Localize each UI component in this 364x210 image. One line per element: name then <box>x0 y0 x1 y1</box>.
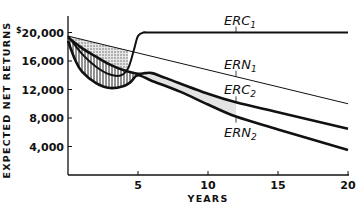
x-tick-label: 5 <box>134 179 142 192</box>
y-tick-label: 16,000 <box>22 55 65 68</box>
series-label-ern1: ERN1 <box>224 57 257 74</box>
chart: 5101520 4,0008,00012,00016,000$20,000 ER… <box>0 0 364 210</box>
y-tick-label: $20,000 <box>16 26 64 40</box>
y-ticks: 4,0008,00012,00016,000$20,000 <box>16 26 72 154</box>
x-axis-label: YEARS <box>187 193 229 204</box>
y-tick-label: 12,000 <box>22 84 65 97</box>
series-label-ern2: ERN2 <box>224 125 257 142</box>
x-tick-label: 15 <box>270 179 285 192</box>
y-tick-label: 8,000 <box>29 112 64 125</box>
x-ticks: 5101520 <box>134 171 356 192</box>
x-tick-label: 10 <box>200 179 216 192</box>
y-axis-label: EXPECTED NET RETURNS <box>1 22 12 179</box>
series-label-erc2: ERC2 <box>224 82 256 99</box>
x-tick-label: 20 <box>340 179 356 192</box>
series-label-erc1: ERC1 <box>224 13 256 30</box>
y-tick-label: 4,000 <box>29 141 64 154</box>
